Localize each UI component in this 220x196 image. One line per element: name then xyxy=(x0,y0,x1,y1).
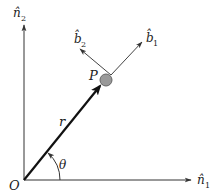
origin-label: O xyxy=(9,178,20,193)
b2-label: b̂ 2 xyxy=(74,29,86,49)
n2-label-subscript: 2 xyxy=(21,14,26,23)
n2-label: n̂ 2 xyxy=(13,6,26,23)
b2-label-subscript: 2 xyxy=(81,40,86,49)
theta-label: θ xyxy=(59,158,67,172)
b1-label: b̂ 1 xyxy=(146,28,158,48)
b1-label-subscript: 1 xyxy=(153,39,158,48)
radius-label: r xyxy=(59,114,66,129)
n1-label: n̂ 1 xyxy=(197,173,210,190)
n1-label-subscript: 1 xyxy=(205,181,210,190)
n2-label-base: n̂ xyxy=(13,6,21,20)
diagram-canvas: O P r θ n̂ 2 n̂ 1 b̂ 1 b̂ 2 xyxy=(0,0,220,196)
polar-coordinates-diagram: O P r θ n̂ 2 n̂ 1 b̂ 1 b̂ 2 xyxy=(0,0,220,196)
b1-unit-vector xyxy=(111,42,142,75)
point-p-marker xyxy=(100,74,112,86)
point-p-label: P xyxy=(88,68,98,83)
n1-label-base: n̂ xyxy=(197,173,205,187)
